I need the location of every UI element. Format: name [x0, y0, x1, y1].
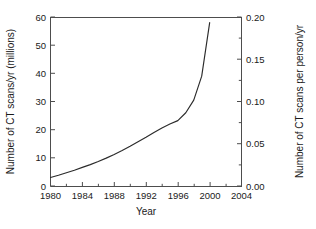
y-tick-label: 10	[35, 152, 46, 163]
x-tick-label: 2004	[231, 190, 252, 201]
y-tick-label: 20	[35, 124, 46, 135]
x-tick-label: 1996	[168, 190, 189, 201]
x-tick-label: 1980	[40, 190, 61, 201]
y-tick-label: 60	[35, 12, 46, 23]
y-tick-label: 40	[35, 68, 46, 79]
y-tick-label-right: 0.20	[246, 12, 265, 23]
y-axis-title-left: Number of CT scans/yr (millions)	[5, 29, 16, 174]
y-tick-label-right: 0.05	[246, 138, 265, 149]
y-tick-label-right: 0.10	[246, 96, 265, 107]
x-axis-tick-labels: 1980 1984 1988 1992 1996 2000 2004	[40, 190, 252, 201]
y-axis-title-right: Number of CT scans per person/yr	[294, 24, 305, 178]
x-tick-label: 1984	[72, 190, 93, 201]
ct-scan-growth-chart: 0 10 20 30 40 50 60 0.00 0.05 0.10 0.15 …	[0, 0, 316, 229]
x-tick-label: 1988	[104, 190, 125, 201]
x-tick-label: 2000	[200, 190, 221, 201]
y-tick-label-right: 0.15	[246, 54, 265, 65]
x-axis-title: Year	[136, 206, 157, 217]
y-tick-label: 30	[35, 96, 46, 107]
x-tick-label: 1992	[136, 190, 157, 201]
y-tick-label: 50	[35, 40, 46, 51]
